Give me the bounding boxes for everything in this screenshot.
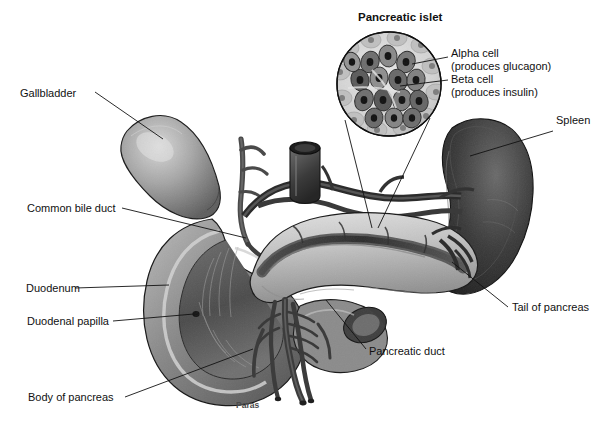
- pancreas-anatomy-figure: Pancreatic islet Alpha cell (produces gl…: [0, 0, 613, 435]
- label-beta-cell-line2: (produces insulin): [451, 86, 538, 99]
- label-tail-of-pancreas: Tail of pancreas: [512, 301, 589, 314]
- label-beta-cell-line1: Beta cell: [451, 73, 493, 86]
- jejunum-loop: [293, 300, 391, 373]
- gallbladder-organ: [121, 116, 221, 219]
- label-duodenal-papilla: Duodenal papilla: [27, 315, 109, 328]
- label-pancreatic-duct: Pancreatic duct: [369, 345, 445, 358]
- label-spleen: Spleen: [556, 114, 590, 127]
- splenic-vessels: [244, 166, 474, 217]
- label-gallbladder: Gallbladder: [20, 87, 76, 100]
- label-common-bile-duct: Common bile duct: [27, 202, 116, 215]
- label-alpha-cell-line1: Alpha cell: [451, 47, 499, 60]
- pancreas-organ: [250, 213, 478, 303]
- inset-title: Pancreatic islet: [358, 11, 442, 24]
- label-duodenum: Duodenum: [26, 282, 80, 295]
- label-body-of-pancreas: Body of pancreas: [28, 391, 114, 404]
- label-alpha-cell-line2: (produces glucagon): [451, 60, 551, 73]
- portal-vein-stump: [290, 142, 320, 204]
- artist-signature: Paras: [236, 399, 259, 412]
